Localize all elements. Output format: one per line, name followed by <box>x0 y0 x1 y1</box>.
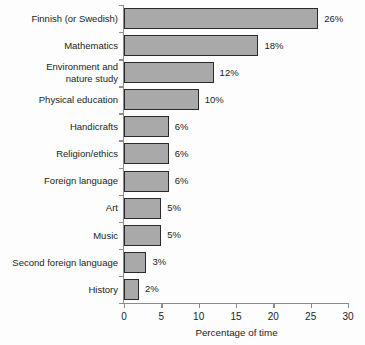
y-axis-tick <box>119 276 124 277</box>
category-label: Second foreign language <box>0 257 118 269</box>
bar <box>124 62 214 83</box>
bar-row: 18% <box>124 32 348 59</box>
plot-area: 26%18%12%10%6%6%6%5%5%3%2% <box>124 5 348 303</box>
x-axis-tick-label: 20 <box>258 311 288 323</box>
x-axis-tick-label: 15 <box>221 311 251 323</box>
bar-value-label: 3% <box>152 257 166 267</box>
y-axis-tick <box>119 5 124 6</box>
category-label: Foreign language <box>0 175 118 187</box>
x-axis-tick-label: 25 <box>296 311 326 323</box>
bar-value-label: 26% <box>324 14 343 24</box>
bar <box>124 252 146 273</box>
bar-row: 5% <box>124 222 348 249</box>
x-axis-tick <box>124 303 125 308</box>
category-label: Handicrafts <box>0 121 118 133</box>
bar <box>124 198 161 219</box>
y-axis-tick <box>119 86 124 87</box>
y-axis-tick <box>119 249 124 250</box>
bar-row: 26% <box>124 5 348 32</box>
category-label: Mathematics <box>0 40 118 52</box>
bar <box>124 171 169 192</box>
bar-row: 10% <box>124 86 348 113</box>
bar <box>124 279 139 300</box>
x-axis-tick <box>199 303 200 308</box>
y-axis-tick <box>119 195 124 196</box>
bar <box>124 89 199 110</box>
y-axis-tick <box>119 113 124 114</box>
x-axis-tick <box>236 303 237 308</box>
category-label: Music <box>0 230 118 242</box>
bar-value-label: 2% <box>145 284 159 294</box>
category-label: Religion/ethics <box>0 148 118 160</box>
bar-value-label: 6% <box>175 176 189 186</box>
bar-row: 3% <box>124 249 348 276</box>
bar-value-label: 18% <box>264 41 283 51</box>
bar <box>124 116 169 137</box>
category-label: Environment and nature study <box>0 61 118 84</box>
y-axis-tick <box>119 222 124 223</box>
bar-value-label: 12% <box>220 68 239 78</box>
category-label: Art <box>0 202 118 214</box>
x-axis-tick <box>348 303 349 308</box>
bar-row: 5% <box>124 195 348 222</box>
bar-row: 12% <box>124 59 348 86</box>
y-axis-tick <box>119 168 124 169</box>
bar-row: 6% <box>124 168 348 195</box>
bar-value-label: 10% <box>205 95 224 105</box>
y-axis-tick <box>119 32 124 33</box>
bar-row: 6% <box>124 140 348 167</box>
bar-value-label: 6% <box>175 122 189 132</box>
bar <box>124 143 169 164</box>
bar-row: 2% <box>124 276 348 303</box>
y-axis-tick <box>119 59 124 60</box>
bar <box>124 225 161 246</box>
bar-row: 6% <box>124 113 348 140</box>
x-axis-tick <box>161 303 162 308</box>
x-axis-tick-label: 5 <box>146 311 176 323</box>
bar-value-label: 6% <box>175 149 189 159</box>
bar-value-label: 5% <box>167 230 181 240</box>
category-label: Physical education <box>0 94 118 106</box>
bar-chart: 26%18%12%10%6%6%6%5%5%3%2% 051015202530 … <box>0 0 365 345</box>
x-axis-tick-label: 0 <box>109 311 139 323</box>
bar <box>124 8 318 29</box>
x-axis-title: Percentage of time <box>124 327 349 338</box>
x-axis-tick <box>311 303 312 308</box>
x-axis-tick-label: 10 <box>184 311 214 323</box>
category-label: Finnish (or Swedish) <box>0 13 118 25</box>
x-axis-tick <box>273 303 274 308</box>
y-axis-tick <box>119 140 124 141</box>
bar <box>124 35 258 56</box>
category-label: History <box>0 284 118 296</box>
x-axis-tick-label: 30 <box>333 311 363 323</box>
bar-value-label: 5% <box>167 203 181 213</box>
